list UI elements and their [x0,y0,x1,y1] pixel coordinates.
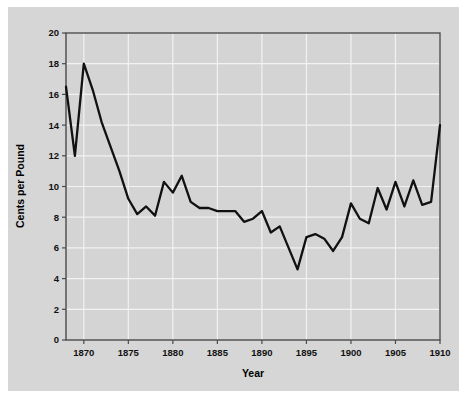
x-axis-ticks: 187018751880188518901895190019051910 [73,340,450,358]
chart-figure: 02468101214161820 1870187518801885189018… [0,0,467,398]
x-tick-label: 1875 [118,347,140,358]
y-tick-label: 6 [54,242,59,253]
y-axis-title: Cents per Pound [14,144,26,228]
x-tick-label: 1905 [385,347,407,358]
y-tick-label: 2 [54,304,59,315]
x-tick-label: 1880 [162,347,183,358]
y-axis-ticks: 02468101214161820 [48,27,66,345]
x-tick-label: 1885 [207,347,229,358]
x-axis-title: Year [242,367,264,379]
line-chart-plot: 02468101214161820 1870187518801885189018… [0,0,467,398]
y-tick-label: 14 [48,120,59,131]
y-tick-label: 20 [48,27,59,38]
y-tick-label: 16 [48,89,59,100]
y-tick-label: 4 [54,273,60,284]
x-tick-label: 1890 [251,347,272,358]
y-tick-label: 18 [48,58,59,69]
y-tick-label: 10 [48,181,59,192]
x-tick-label: 1895 [296,347,318,358]
x-tick-label: 1900 [340,347,361,358]
y-tick-label: 0 [54,334,59,345]
y-tick-label: 8 [54,212,59,223]
x-tick-label: 1910 [429,347,450,358]
y-tick-label: 12 [48,150,59,161]
x-tick-label: 1870 [73,347,94,358]
